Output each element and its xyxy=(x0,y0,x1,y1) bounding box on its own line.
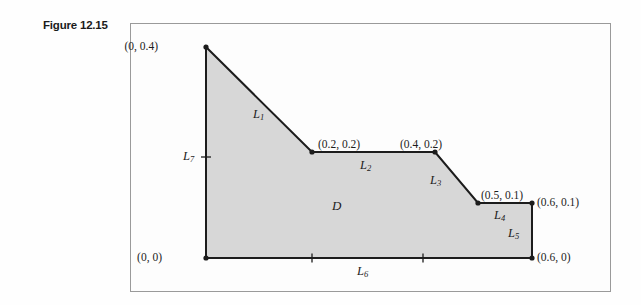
segment-label-seg-L6: L6 xyxy=(357,265,368,278)
segment-label-seg-L4: L4 xyxy=(494,209,505,222)
coordinate-label-v-06-01: (0.6, 0.1) xyxy=(537,197,579,209)
segment-label-seg-L3: L3 xyxy=(430,174,441,187)
coordinate-label-v-02-02: (0.2, 0.2) xyxy=(318,139,360,151)
vertex-dot xyxy=(203,44,208,49)
vertex-dot xyxy=(203,255,208,260)
coordinate-label-v-05-01: (0.5, 0.1) xyxy=(481,190,523,202)
coordinate-label-v-0-0: (0, 0) xyxy=(0,252,162,264)
segment-label-seg-L1: L1 xyxy=(253,108,264,121)
vertex-dot xyxy=(475,200,480,205)
figure-page: Figure 12.15 (0, 0.4)(0.2, 0.2)(0.4, 0.2… xyxy=(0,0,641,305)
vertex-dot xyxy=(529,200,534,205)
region-label-D: D xyxy=(332,198,341,214)
coordinate-label-v-0-04: (0, 0.4) xyxy=(0,41,158,53)
segment-label-seg-L2: L2 xyxy=(360,159,371,172)
coordinate-label-v-06-0: (0.6, 0) xyxy=(537,252,571,264)
vertex-dot xyxy=(309,149,314,154)
coordinate-label-v-04-02: (0.4, 0.2) xyxy=(400,139,442,151)
segment-label-seg-L7: L7 xyxy=(183,150,194,163)
vertex-dot xyxy=(529,255,534,260)
segment-label-seg-L5: L5 xyxy=(508,227,519,240)
